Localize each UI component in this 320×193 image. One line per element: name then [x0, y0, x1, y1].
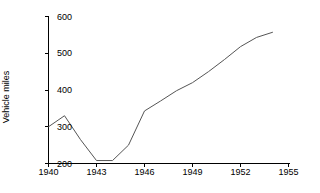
y-tick-label: 600	[57, 12, 72, 21]
y-tick-label: 300	[57, 122, 72, 131]
y-tick-label: 400	[57, 86, 72, 95]
series-line	[49, 32, 273, 160]
x-tick-label: 1955	[278, 168, 298, 177]
y-tick-label: 500	[57, 49, 72, 58]
axes	[49, 16, 290, 164]
x-tick-label: 1946	[134, 168, 154, 177]
chart-container: Vehicle miles 194019431946194919521955 2…	[0, 0, 320, 193]
x-tick-label: 1943	[86, 168, 106, 177]
data-series	[49, 32, 273, 160]
x-tick-label: 1952	[230, 168, 250, 177]
plot-area	[0, 0, 320, 193]
x-tick-label: 1949	[182, 168, 202, 177]
tick-marks	[45, 17, 289, 168]
y-tick-label: 200	[57, 159, 72, 168]
x-tick-label: 1940	[38, 168, 58, 177]
